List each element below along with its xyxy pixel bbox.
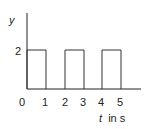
x-tick-label-2: 2 [62,97,68,108]
pulse-3 [102,50,121,89]
x-tick-label-0: 0 [19,97,25,108]
x-tick-label-5: 5 [117,97,123,108]
x-tick-label-3: 3 [80,97,86,108]
x-axis-label: t in s [99,113,125,124]
x-axis-unit: in s [108,112,125,124]
x-tick-label-4: 4 [98,97,104,108]
y-tick-label-2: 2 [15,46,21,57]
pulse-2 [65,50,84,89]
x-tick-label-1: 1 [42,97,48,108]
y-axis-label: y [9,15,15,26]
pulse-train [27,50,121,89]
pulse-chart [0,0,149,129]
x-axis-variable: t [99,112,102,124]
pulse-1 [27,50,46,89]
